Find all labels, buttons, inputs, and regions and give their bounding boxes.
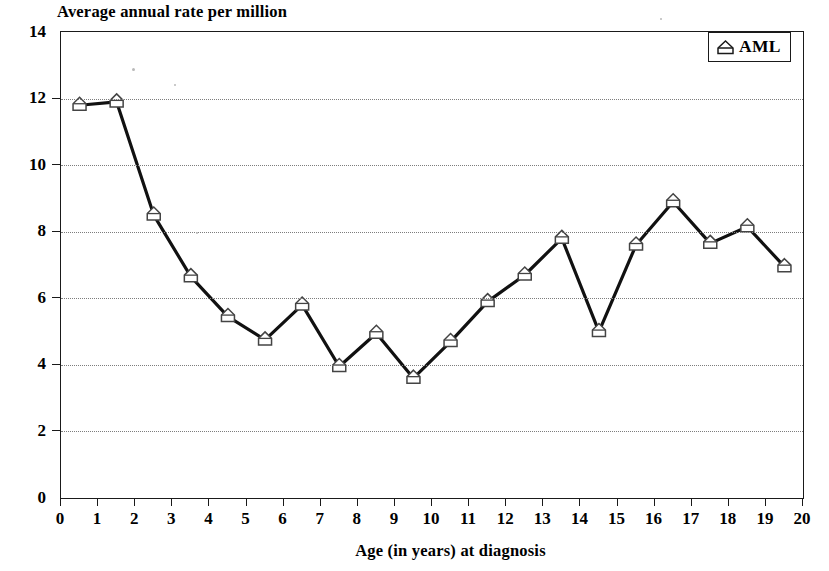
x-axis-tick-label: 9 bbox=[374, 510, 414, 527]
data-point-marker[interactable]: AML @ 18.5: 8.15 bbox=[741, 219, 754, 232]
x-axis-tick-label: 4 bbox=[188, 510, 228, 527]
x-axis-tick-label: 17 bbox=[671, 510, 711, 527]
series-aml-line: AML @ 0.5: 11.8AML @ 1.5: 11.9AML @ 2.5:… bbox=[61, 32, 803, 498]
x-axis-tick-label: 5 bbox=[226, 510, 266, 527]
series-line-aml bbox=[80, 102, 785, 378]
plot-inner: AML @ 0.5: 11.8AML @ 1.5: 11.9AML @ 2.5:… bbox=[61, 32, 803, 498]
gridline-horizontal bbox=[61, 431, 803, 432]
x-axis-tick-label: 16 bbox=[634, 510, 674, 527]
x-axis-tick-label: 10 bbox=[411, 510, 451, 527]
gridline-horizontal bbox=[61, 298, 803, 299]
legend[interactable]: AML bbox=[708, 32, 791, 62]
x-axis-tick-label: 12 bbox=[485, 510, 525, 527]
y-axis-tick-label: 2 bbox=[0, 422, 46, 439]
x-axis-tick-label: 6 bbox=[263, 510, 303, 527]
legend-label-aml: AML bbox=[739, 38, 781, 56]
y-axis-tick-label: 6 bbox=[0, 289, 46, 306]
scan-speck bbox=[196, 232, 198, 234]
chart-page: Average annual rate per million 02468101… bbox=[0, 0, 829, 571]
gridline-horizontal bbox=[61, 165, 803, 166]
scan-speck bbox=[174, 84, 176, 86]
x-axis-tick-label: 13 bbox=[522, 510, 562, 527]
scan-speck bbox=[660, 18, 662, 20]
x-axis-tick-label: 0 bbox=[40, 510, 80, 527]
x-axis-tick-label: 1 bbox=[77, 510, 117, 527]
x-axis-tick-label: 3 bbox=[151, 510, 191, 527]
gridline-horizontal bbox=[61, 232, 803, 233]
x-axis-tick-label: 14 bbox=[559, 510, 599, 527]
plot-area: AML @ 0.5: 11.8AML @ 1.5: 11.9AML @ 2.5:… bbox=[60, 31, 804, 499]
data-point-marker[interactable]: AML @ 1.5: 11.9 bbox=[110, 94, 123, 107]
data-point-marker[interactable]: AML @ 11.5: 5.9 bbox=[481, 294, 494, 307]
x-axis-title: Age (in years) at diagnosis bbox=[0, 541, 829, 561]
y-axis-tick-label: 8 bbox=[0, 222, 46, 239]
x-axis-tick-label: 20 bbox=[782, 510, 822, 527]
x-axis-tick-label: 18 bbox=[708, 510, 748, 527]
y-axis-tick-label: 10 bbox=[0, 156, 46, 173]
data-point-marker[interactable]: AML @ 16.5: 8.9 bbox=[667, 194, 680, 207]
x-axis-tick-label: 19 bbox=[745, 510, 785, 527]
gridline-horizontal bbox=[61, 99, 803, 100]
x-axis-tick-label: 11 bbox=[448, 510, 488, 527]
data-point-marker[interactable]: AML @ 14.5: 5 bbox=[592, 324, 605, 337]
x-axis-tick-label: 2 bbox=[114, 510, 154, 527]
y-axis-tick-label: 4 bbox=[0, 355, 46, 372]
chart-title: Average annual rate per million bbox=[57, 2, 287, 22]
x-axis-tick-label: 15 bbox=[597, 510, 637, 527]
scan-speck bbox=[132, 68, 135, 71]
data-point-marker[interactable]: AML @ 8.5: 4.95 bbox=[370, 325, 383, 338]
y-axis-tick-label: 0 bbox=[0, 489, 46, 506]
y-axis-tick-label: 12 bbox=[0, 89, 46, 106]
gridline-horizontal bbox=[61, 365, 803, 366]
x-axis-tick-label: 7 bbox=[300, 510, 340, 527]
x-axis-tick-label: 8 bbox=[337, 510, 377, 527]
y-axis-tick-label: 14 bbox=[0, 23, 46, 40]
pentagon-marker-icon bbox=[716, 39, 735, 56]
data-point-marker[interactable]: AML @ 2.5: 8.5 bbox=[147, 207, 160, 220]
